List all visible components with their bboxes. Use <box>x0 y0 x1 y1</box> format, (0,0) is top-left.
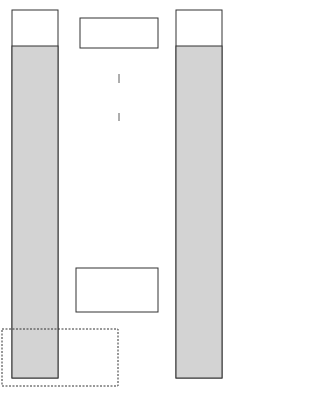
dna-structure-diagram <box>0 0 326 394</box>
base-pair-highlight-box <box>76 268 158 312</box>
base-pairs-label-box <box>80 18 158 48</box>
left-backbone <box>12 10 58 378</box>
left-backbone-fill <box>12 46 58 378</box>
right-backbone <box>176 10 222 378</box>
right-backbone-fill <box>176 46 222 378</box>
